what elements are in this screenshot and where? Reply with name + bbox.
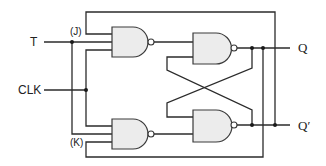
qbar-label: Q′	[298, 118, 310, 133]
nand-gate-q	[193, 33, 232, 64]
junction-dot-q-cross	[250, 46, 254, 50]
nand-bubble-q	[231, 45, 237, 51]
k-label: (K)	[70, 137, 83, 148]
nand-gate-j	[112, 27, 148, 57]
junction-dot-qbar-cross	[250, 123, 254, 127]
nand-bubble-j	[148, 39, 154, 45]
junction-dot-clk	[84, 88, 88, 92]
clk-label: CLK	[18, 83, 41, 97]
q-label: Q	[298, 40, 308, 55]
j-label: (J)	[70, 26, 82, 37]
circuit-diagram: T CLK (J) (K) Q Q′	[0, 0, 326, 166]
nand-bubble-qbar	[231, 122, 237, 128]
junction-dot-t	[70, 40, 74, 44]
nand-gate-qbar	[193, 110, 232, 142]
clk-to-j-wire	[86, 50, 112, 90]
nand-bubble-k	[148, 131, 154, 137]
junction-dot-qbar-feedback	[273, 123, 277, 127]
nand-gate-k	[112, 119, 148, 149]
clk-to-k-wire	[86, 90, 112, 126]
t-to-k-wire	[72, 42, 112, 134]
junction-dot-q-feedback	[261, 46, 265, 50]
t-label: T	[30, 35, 38, 49]
